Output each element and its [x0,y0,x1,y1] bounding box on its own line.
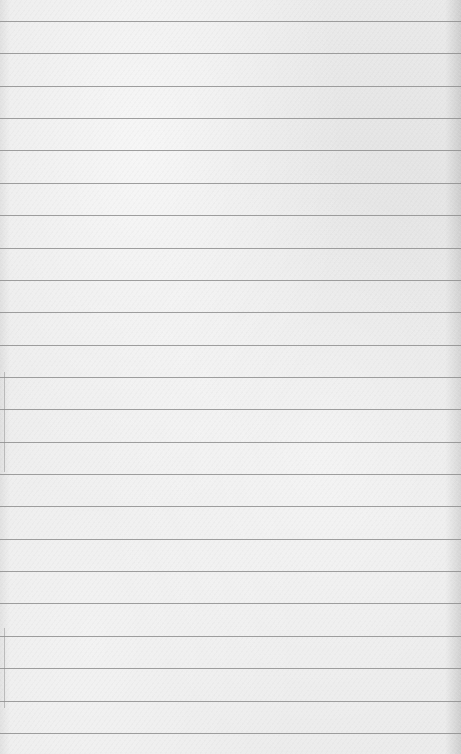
ruled-line [0,733,461,734]
ruled-line [0,539,461,540]
ruled-line [0,668,461,669]
ruled-line [0,409,461,410]
ruled-line [0,86,461,87]
ruled-line [0,571,461,572]
ruled-line [0,636,461,637]
ruled-line [0,248,461,249]
ruled-line [0,53,461,54]
ruled-line [0,345,461,346]
ruled-line [0,215,461,216]
ruled-line [0,442,461,443]
ruled-line [0,21,461,22]
ruled-line [0,603,461,604]
ruled-line [0,377,461,378]
ruled-line [0,312,461,313]
ruled-line [0,506,461,507]
ruled-line [0,701,461,702]
lined-paper-sheet [0,0,461,754]
ruled-line [0,280,461,281]
ruled-line [0,150,461,151]
left-edge-crease [4,372,5,472]
ruled-line [0,183,461,184]
ruled-line [0,474,461,475]
ruled-line [0,118,461,119]
